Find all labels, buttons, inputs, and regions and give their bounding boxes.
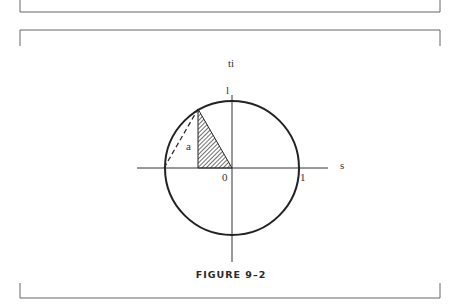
dashed-chord: [164, 109, 198, 168]
vertical-axis-label: ti: [228, 58, 234, 69]
right-intercept-label: 1: [300, 172, 306, 183]
horizontal-axis-label: s: [340, 160, 344, 171]
top-intercept-label: l: [226, 85, 229, 96]
page-frame: ti l a 0 1 s FIGURE 9–2: [0, 0, 462, 306]
origin-label: 0: [222, 172, 228, 183]
figure-diagram: [0, 0, 462, 306]
segment-label: a: [186, 141, 191, 152]
shaded-triangle: [198, 109, 232, 168]
figure-caption: FIGURE 9–2: [0, 269, 462, 280]
previous-figure-box-bottom: [20, 0, 440, 12]
